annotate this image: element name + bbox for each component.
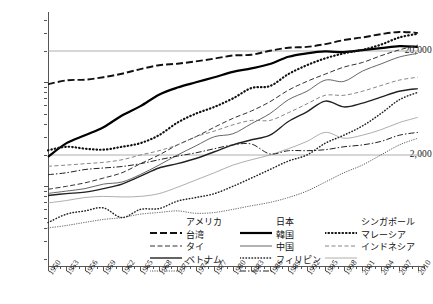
legend-label: インドネシア bbox=[361, 241, 415, 253]
series-line-malaysia bbox=[48, 77, 418, 166]
legend-label: 台湾 bbox=[186, 229, 204, 241]
legend-label: 中国 bbox=[276, 241, 294, 253]
legend-label: シンガポール bbox=[361, 216, 415, 228]
legend-label: マレーシア bbox=[361, 229, 406, 241]
series-line-thailand bbox=[48, 89, 418, 196]
legend-label: タイ bbox=[186, 241, 204, 253]
series-line-usa bbox=[48, 32, 418, 84]
legend-key-malaysia bbox=[325, 234, 357, 238]
legend-key-china bbox=[240, 246, 272, 250]
legend-label: 韓国 bbox=[276, 229, 294, 241]
series-line-korea bbox=[48, 53, 418, 193]
chart-legend: アメリカ台湾タイベトナム日本韓国中国フィリピンシンガポールマレーシアインドネシア bbox=[150, 216, 430, 266]
legend-label: アメリカ bbox=[186, 216, 222, 228]
legend-key-indonesia bbox=[325, 246, 357, 250]
series-line-taiwan bbox=[48, 45, 418, 189]
series-line-philippines bbox=[48, 132, 418, 174]
legend-key-korea bbox=[240, 234, 272, 238]
legend-key-philippines bbox=[240, 259, 272, 263]
legend-label: フィリピン bbox=[276, 254, 321, 266]
series-line-china bbox=[48, 92, 418, 222]
legend-label: 日本 bbox=[276, 216, 294, 228]
legend-key-thailand bbox=[150, 246, 182, 250]
series-line-indonesia bbox=[48, 117, 418, 202]
legend-key-vietnam bbox=[150, 259, 182, 263]
legend-key-taiwan bbox=[150, 234, 182, 238]
legend-key-singapore bbox=[325, 221, 357, 225]
legend-key-japan bbox=[240, 221, 272, 225]
legend-key-usa bbox=[150, 221, 182, 225]
series-line-vietnam bbox=[48, 138, 418, 228]
legend-label: ベトナム bbox=[186, 254, 222, 266]
